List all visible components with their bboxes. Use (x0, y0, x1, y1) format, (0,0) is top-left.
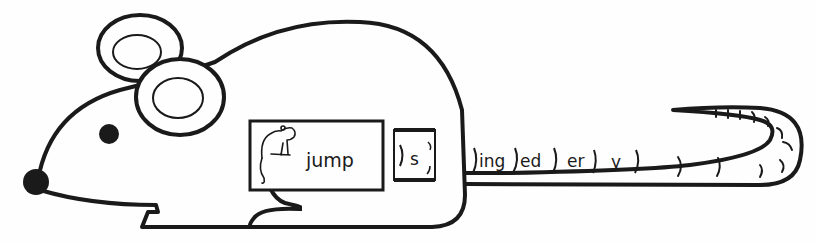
suffix-ing: ing (479, 151, 505, 171)
tail-suffix-list: ing ed er y (473, 148, 638, 173)
slider-suffix: s (410, 149, 419, 169)
suffix-er: er (567, 151, 584, 171)
tail-segment-marks (678, 110, 792, 177)
suffix-ed: ed (520, 151, 541, 171)
suffix-y: y (611, 152, 621, 172)
mouse-eye (99, 124, 119, 144)
mouse-nose (23, 169, 49, 195)
base-word: jump (305, 149, 354, 171)
mouse-word-slider-illustration: jump s ing ed er y (0, 0, 817, 242)
mouse-ear-front (136, 59, 224, 135)
suffix-slider-window[interactable]: s (394, 129, 435, 181)
base-word-card: jump (250, 121, 383, 190)
mouse-tail (465, 107, 802, 185)
